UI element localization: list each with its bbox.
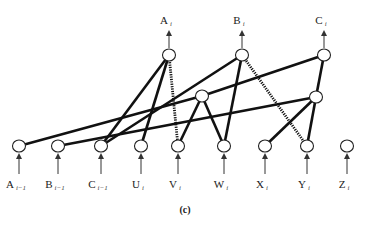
output-label-A_i: Ai	[160, 14, 172, 28]
input-node-W_i	[218, 140, 231, 152]
input-label-B_i-1: Bi−1	[45, 178, 65, 192]
network-diagram: AiBiCiAi−1Bi−1Ci−1UiViWiXiYiZi (c)	[0, 0, 370, 234]
input-node-C_i-1	[95, 140, 108, 152]
edge-H2-B_i-1	[58, 97, 316, 146]
figure-caption: (c)	[179, 204, 190, 216]
input-label-V_i: Vi	[169, 178, 181, 192]
input-node-A_i-1	[13, 140, 26, 152]
input-node-U_i	[135, 140, 148, 152]
output-label-C_i: Ci	[315, 14, 326, 28]
input-node-B_i-1	[52, 140, 65, 152]
hidden-node-H2	[310, 91, 323, 103]
output-node-C_i	[318, 49, 331, 61]
input-label-X_i: Xi	[256, 178, 268, 192]
arrows-layer	[19, 33, 347, 174]
input-label-W_i: Wi	[214, 178, 228, 192]
edge-B_i-C_i-1	[101, 55, 242, 146]
input-label-U_i: Ui	[132, 178, 144, 192]
edge-C_i-H1	[202, 55, 324, 96]
input-label-Z_i: Zi	[339, 178, 350, 192]
edge-A_i-U_i	[141, 55, 169, 146]
input-label-C_i-1: Ci−1	[88, 178, 108, 192]
edges-layer	[19, 55, 324, 146]
hidden-node-H1	[196, 90, 209, 102]
input-node-Y_i	[301, 140, 314, 152]
output-node-B_i	[236, 49, 249, 61]
input-label-Y_i: Yi	[298, 178, 310, 192]
input-label-A_i-1: Ai−1	[6, 178, 26, 192]
edge-H1-W_i	[202, 96, 224, 146]
input-node-Z_i	[341, 140, 354, 152]
edge-B_i-W_i	[224, 55, 242, 146]
output-node-A_i	[163, 49, 176, 61]
input-node-X_i	[259, 140, 272, 152]
input-node-V_i	[172, 140, 185, 152]
output-label-B_i: Bi	[233, 14, 244, 28]
